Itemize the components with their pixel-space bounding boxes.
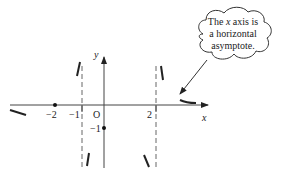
callout-line-1: The x axis is: [200, 16, 266, 28]
curve-left-tail: [10, 110, 26, 115]
origin-label: O: [93, 110, 100, 120]
curve-near-neg1-bottom: [87, 153, 89, 166]
curve-near-2-bottom: [144, 155, 149, 167]
x-axis-label: x: [202, 113, 206, 123]
point-0-neg1: [102, 126, 106, 130]
callout-line-1-post: axis is: [230, 16, 258, 27]
point-neg2-0: [53, 103, 57, 107]
tick-label-2: 2: [147, 110, 152, 120]
callout-text: The x axis is a horizontal asymptote.: [200, 16, 266, 52]
tick-label-neg2: −2: [46, 110, 57, 120]
callout-line-2: a horizontal: [200, 28, 266, 40]
curve-near-2-top: [161, 66, 163, 80]
y-axis-label: y: [94, 50, 98, 60]
curve-near-neg1-top: [77, 62, 80, 76]
callout-line-3: asymptote.: [200, 40, 266, 52]
curve-right-tail: [180, 100, 196, 103]
tick-label-y-neg1: −1: [90, 124, 101, 134]
tick-label-neg1: −1: [69, 110, 80, 120]
callout-line-1-pre: The: [208, 16, 226, 27]
callout-arrow: [180, 60, 207, 94]
asymptote-diagram: y x O −2 −1 2 −1 The x axis is a horizon…: [0, 0, 286, 177]
